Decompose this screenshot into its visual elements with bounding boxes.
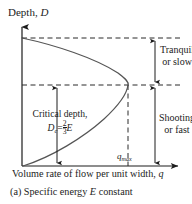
tranquil-region-label: Tranquilor slow [160, 44, 192, 68]
critical-depth-label: Critical depth,Dc=23E [26, 108, 94, 136]
shooting-label-line1: Shooting [159, 112, 192, 123]
shooting-label-line2: or fast [164, 124, 189, 135]
tranquil-label-line1: Tranquil [160, 44, 192, 55]
critical-depth-caption: Critical depth, [33, 108, 88, 119]
y-axis-title-text: Depth, [8, 6, 40, 18]
critical-depth-energy-symbol: E [67, 122, 73, 133]
shooting-region-label: Shootingor fast [158, 112, 192, 136]
x-axis-title-text: Volume rate of flow per unit width, [12, 168, 158, 179]
figure-caption-prefix: (a) Specific energy [10, 186, 90, 197]
specific-energy-figure: Depth, D Tranquilor slow Shootingor fast… [0, 0, 192, 204]
x-axis-title: Volume rate of flow per unit width, q [12, 168, 163, 179]
qmax-label: qmax [117, 151, 132, 163]
x-axis-title-variable: q [158, 168, 163, 179]
y-axis-title-variable: D [40, 6, 48, 18]
y-axis-title: Depth, D [8, 6, 48, 18]
specific-energy-curve [22, 38, 128, 166]
tranquil-label-line2: or slow [162, 56, 192, 67]
figure-caption-suffix: constant [96, 186, 133, 197]
qmax-subscript: max [122, 156, 132, 162]
figure-caption: (a) Specific energy E constant [10, 186, 133, 197]
